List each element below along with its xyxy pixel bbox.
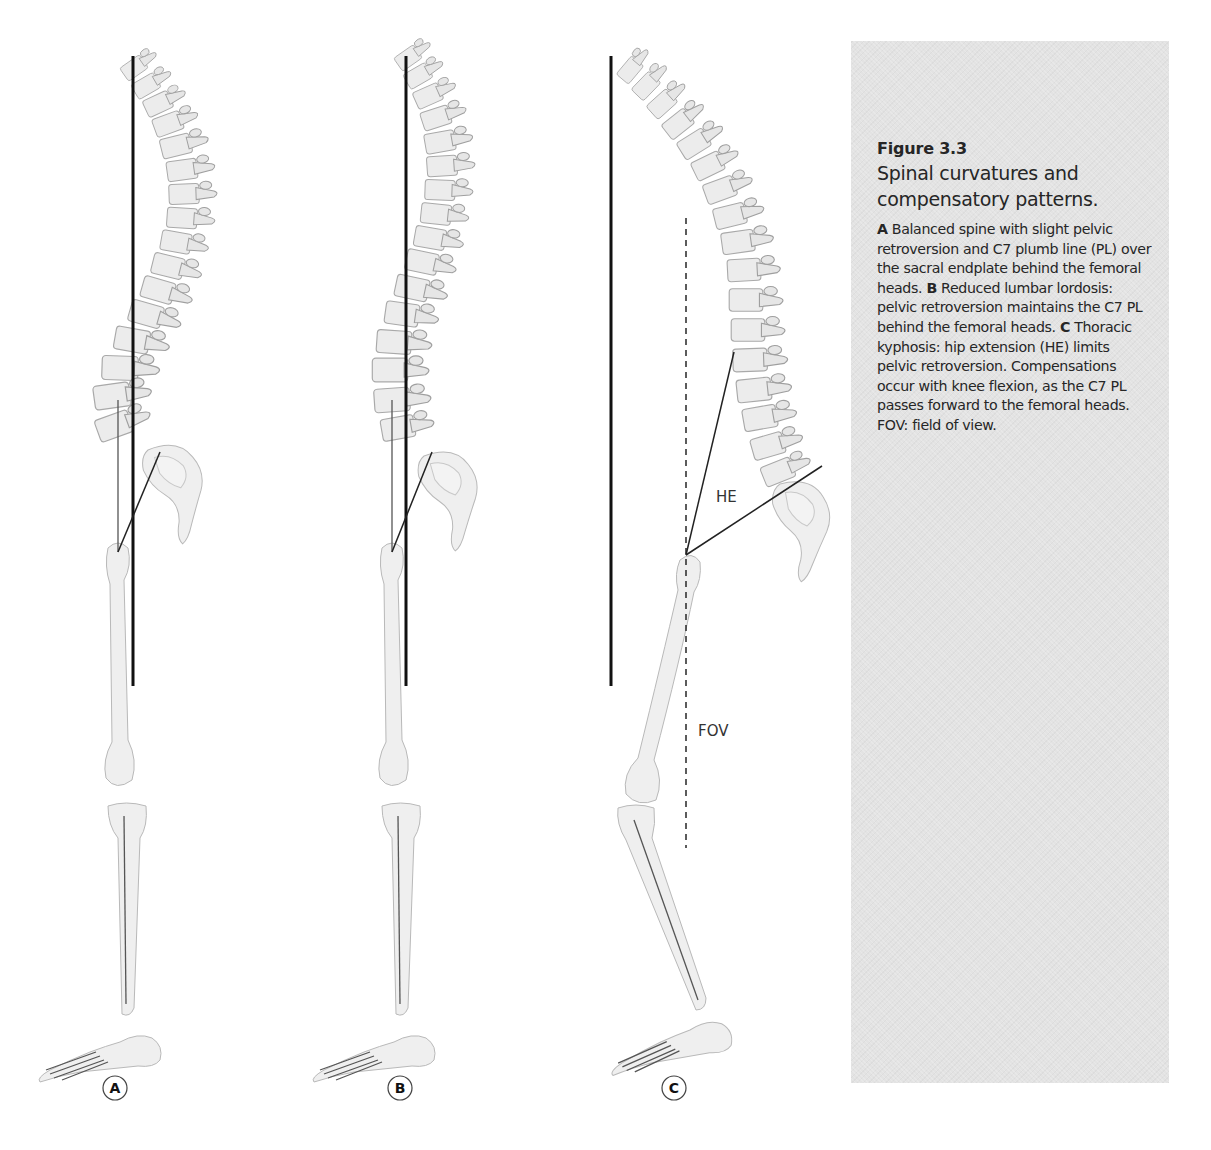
panel-c-label: C <box>662 1076 686 1100</box>
svg-text:B: B <box>395 1080 406 1096</box>
panel-b-femur <box>379 543 408 786</box>
panel-a-skeleton: A <box>39 45 217 1100</box>
panel-b-skeleton: B <box>313 35 479 1100</box>
panel-b-tibia <box>382 803 420 1015</box>
figure-number: Figure 3.3 <box>877 139 1153 158</box>
panel-b-spine <box>372 35 479 552</box>
caption-label-c: C <box>1060 319 1070 335</box>
panel-a-tibia <box>108 803 146 1015</box>
panel-a-label: A <box>103 1076 127 1100</box>
panel-a-femur <box>105 543 134 786</box>
panel-a-foot <box>39 1036 161 1082</box>
caption-label-a: A <box>877 221 888 237</box>
caption-label-b: B <box>926 280 936 296</box>
panel-c-fov-label: FOV <box>698 722 729 740</box>
panel-b-foot <box>313 1036 435 1082</box>
figure-caption-panel: Figure 3.3 Spinal curvatures and compens… <box>851 41 1169 1083</box>
svg-text:C: C <box>669 1080 679 1096</box>
figure-caption-body: A Balanced spine with slight pelvic retr… <box>877 220 1153 436</box>
panel-c-foot <box>609 1021 734 1076</box>
caption-text-c: Thoracic kyphosis: hip extension (HE) li… <box>877 319 1132 433</box>
panel-c-femur <box>625 555 700 802</box>
panel-c-he-label: HE <box>716 488 737 506</box>
panel-c-skeleton: HE FOV C <box>609 44 832 1100</box>
panel-b-label: B <box>388 1076 412 1100</box>
panel-a-spine <box>92 45 217 546</box>
panel-c-he-line-upper <box>686 352 734 555</box>
svg-text:A: A <box>110 1080 121 1096</box>
panel-c-tibia <box>618 805 706 1010</box>
spinal-curvature-figure: A B <box>0 0 850 1150</box>
figure-title: Spinal curvatures and compensatory patte… <box>877 160 1153 212</box>
